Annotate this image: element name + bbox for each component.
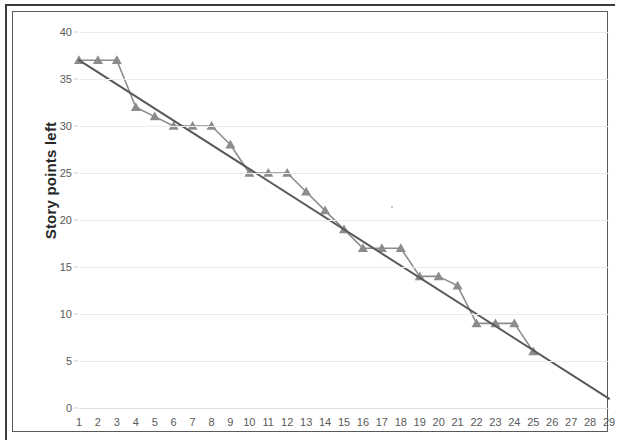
x-tick-label: 12 [281,416,293,428]
y-tick-mark [74,126,78,127]
y-gridline [79,173,609,174]
y-tick-mark [74,361,78,362]
x-tick-label: 8 [208,416,214,428]
x-tick-label: 9 [227,416,233,428]
y-tick-mark [74,173,78,174]
y-tick-label: 5 [66,355,72,367]
x-tick-label: 1 [76,416,82,428]
plot-area: 0510152025303540123456789101112131415161… [79,32,609,408]
y-tick-label: 40 [60,26,72,38]
x-tick-label: 4 [133,416,139,428]
y-gridline [79,220,609,221]
x-tick-label: 29 [603,416,615,428]
y-gridline [79,267,609,268]
y-axis-title: Story points left [42,96,59,266]
y-tick-mark [74,79,78,80]
x-tick-label: 16 [357,416,369,428]
x-tick-label: 14 [319,416,331,428]
y-tick-mark [74,32,78,33]
y-tick-label: 0 [66,402,72,414]
y-gridline [79,79,609,80]
x-tick-label: 28 [584,416,596,428]
x-tick-label: 7 [190,416,196,428]
x-tick-label: 17 [376,416,388,428]
y-tick-mark [74,314,78,315]
x-tick-label: 13 [300,416,312,428]
y-tick-label: 20 [60,214,72,226]
x-tick-label: 11 [263,416,274,428]
x-tick-label: 23 [489,416,501,428]
y-tick-mark [74,267,78,268]
x-tick-label: 5 [152,416,158,428]
x-tick-label: 3 [114,416,120,428]
burndown-chart-screenshot: Story points left 0510152025303540123456… [0,0,619,447]
y-tick-mark [74,408,78,409]
x-tick-label: 6 [171,416,177,428]
data-point-marker [131,102,141,111]
y-gridline [79,32,609,33]
y-tick-mark [74,220,78,221]
x-tick-label: 15 [338,416,350,428]
x-tick-label: 10 [243,416,255,428]
y-tick-label: 15 [60,261,72,273]
y-tick-label: 35 [60,73,72,85]
y-tick-label: 10 [60,308,72,320]
data-point-marker [453,281,463,290]
y-tick-label: 30 [60,120,72,132]
chart-frame: Story points left 0510152025303540123456… [12,11,608,432]
x-tick-label: 25 [527,416,539,428]
x-tick-label: 26 [546,416,558,428]
x-tick-label: 18 [395,416,407,428]
y-gridline [79,126,609,127]
x-tick-label: 19 [414,416,426,428]
x-tick-label: 20 [433,416,445,428]
x-tick-label: 21 [451,416,463,428]
y-gridline [79,314,609,315]
series-line-ideal-trend-line [79,60,609,398]
x-tick-label: 22 [470,416,482,428]
data-point-marker [150,112,160,121]
y-gridline [79,408,609,409]
x-tick-label: 2 [95,416,101,428]
y-gridline [79,361,609,362]
y-tick-label: 25 [60,167,72,179]
x-tick-label: 27 [565,416,577,428]
x-tick-label: 24 [508,416,520,428]
